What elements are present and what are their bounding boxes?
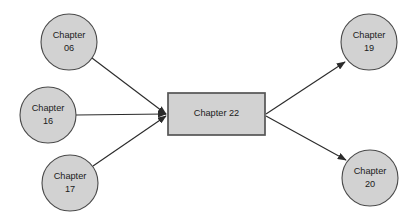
node-circle bbox=[342, 150, 398, 206]
node-chapter-20[interactable]: Chapter20 bbox=[342, 150, 398, 206]
node-circle bbox=[341, 14, 397, 70]
edge-arrow bbox=[92, 58, 166, 114]
edge-arrow bbox=[266, 62, 345, 114]
chapter-dependency-diagram: Chapter06Chapter16Chapter17Chapter 22Cha… bbox=[0, 0, 419, 221]
node-chapter-19[interactable]: Chapter19 bbox=[341, 14, 397, 70]
node-chapter-06[interactable]: Chapter06 bbox=[41, 14, 97, 70]
node-chapter-22[interactable]: Chapter 22 bbox=[168, 93, 265, 135]
node-circle bbox=[20, 87, 76, 143]
edge-arrow bbox=[76, 114, 166, 115]
node-chapter-16[interactable]: Chapter16 bbox=[20, 87, 76, 143]
node-circle bbox=[41, 14, 97, 70]
edge-arrow bbox=[93, 116, 166, 166]
diagram-canvas: Chapter06Chapter16Chapter17Chapter 22Cha… bbox=[0, 0, 419, 221]
node-circle bbox=[42, 155, 98, 211]
edge-arrow bbox=[266, 116, 346, 160]
nodes-group: Chapter06Chapter16Chapter17Chapter 22Cha… bbox=[20, 14, 398, 211]
node-rect bbox=[168, 93, 265, 135]
node-chapter-17[interactable]: Chapter17 bbox=[42, 155, 98, 211]
